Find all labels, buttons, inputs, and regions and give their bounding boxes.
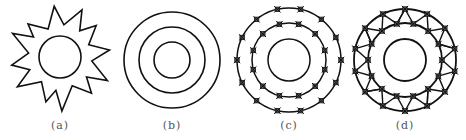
node-marker-icon xyxy=(297,6,303,12)
node-marker-icon xyxy=(402,6,408,12)
node-marker-icon xyxy=(424,103,430,109)
node-marker-icon xyxy=(442,89,448,95)
node-marker-icon xyxy=(352,45,358,51)
node-marker-icon xyxy=(253,16,259,22)
node-marker-icon xyxy=(452,45,458,51)
node-marker-icon xyxy=(338,57,344,63)
panel-d-label: (d) xyxy=(396,119,415,132)
node-marker-icon xyxy=(295,21,301,27)
node-marker-icon xyxy=(362,89,368,95)
node-marker-icon xyxy=(260,31,266,37)
node-marker-icon xyxy=(234,57,240,63)
inner-circle xyxy=(268,39,310,81)
node-marker-icon xyxy=(365,57,371,63)
node-marker-icon xyxy=(239,79,245,85)
node-marker-icon xyxy=(333,79,339,85)
node-marker-icon xyxy=(312,31,318,37)
node-marker-icon xyxy=(318,16,324,22)
node-marker-icon xyxy=(333,34,339,40)
node-marker-icon xyxy=(424,11,430,17)
node-marker-icon xyxy=(250,66,256,72)
middle-circle xyxy=(139,27,205,93)
node-marker-icon xyxy=(274,6,280,12)
node-marker-icon xyxy=(439,57,445,63)
node-marker-icon xyxy=(369,41,375,47)
panel-a-star-shape xyxy=(12,6,110,111)
panel-c-circles-with-nodes xyxy=(234,6,344,114)
node-marker-icon xyxy=(452,68,458,74)
node-marker-icon xyxy=(410,21,416,27)
node-marker-icon xyxy=(312,83,318,89)
node-marker-icon xyxy=(379,28,385,34)
panel-b-label: (b) xyxy=(163,119,182,132)
node-marker-icon xyxy=(435,73,441,79)
node-marker-icon xyxy=(380,11,386,17)
node-marker-icon xyxy=(260,83,266,89)
panel-b-concentric-circles xyxy=(124,12,220,108)
inner-circle xyxy=(154,42,190,78)
node-marker-icon xyxy=(410,93,416,99)
star-outline xyxy=(12,6,110,111)
node-marker-icon xyxy=(253,97,259,103)
node-marker-icon xyxy=(239,34,245,40)
node-marker-icon xyxy=(362,25,368,31)
node-marker-icon xyxy=(435,41,441,47)
node-marker-icon xyxy=(322,47,328,53)
panel-a-label: (a) xyxy=(51,119,69,132)
inner-circle xyxy=(39,36,81,78)
node-marker-icon xyxy=(394,21,400,27)
node-marker-icon xyxy=(402,108,408,114)
panel-c-label: (c) xyxy=(280,119,298,132)
node-marker-icon xyxy=(250,47,256,53)
node-marker-icon xyxy=(442,25,448,31)
node-marker-icon xyxy=(274,107,280,113)
node-marker-icon xyxy=(318,97,324,103)
node-marker-icon xyxy=(393,93,399,99)
node-marker-icon xyxy=(322,66,328,72)
node-marker-icon xyxy=(276,21,282,27)
node-marker-icon xyxy=(295,93,301,99)
node-marker-icon xyxy=(276,93,282,99)
node-marker-icon xyxy=(368,73,374,79)
node-marker-icon xyxy=(425,28,431,34)
node-marker-icon xyxy=(380,103,386,109)
inner-circle xyxy=(384,39,426,81)
panel-d-meshed-ring xyxy=(352,6,458,114)
node-marker-icon xyxy=(352,68,358,74)
node-marker-icon xyxy=(379,86,385,92)
node-marker-icon xyxy=(425,86,431,92)
node-marker-icon xyxy=(297,107,303,113)
